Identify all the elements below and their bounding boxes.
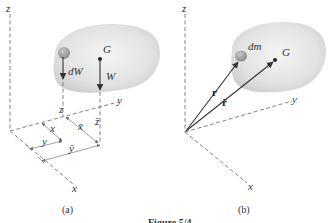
z-dim-label: z — [58, 103, 64, 115]
z-axis-label-b: z — [181, 2, 187, 14]
centroid-figure: z y x dW G W z z̄ x x̄ y ȳ — [0, 0, 333, 223]
y-axis-label-a: y — [116, 94, 122, 106]
y-axis-b — [185, 101, 292, 132]
panel-b: z y x dm G r r̄ (b) — [181, 2, 326, 216]
r-label: r — [212, 86, 217, 98]
y-dim-label: y — [41, 135, 47, 147]
x-axis-label-b: x — [247, 180, 253, 192]
G-label-a: G — [103, 43, 111, 55]
x-axis-label-a: x — [71, 182, 77, 194]
figure-caption: Figure 5/4 — [148, 217, 191, 223]
x-bar-dim-label: x̄ — [77, 120, 83, 132]
mass-element-a — [58, 47, 70, 59]
r-bar-vector — [186, 62, 273, 131]
ext-line-2 — [38, 157, 44, 163]
y-axis-a — [10, 102, 118, 131]
rigid-body-a — [54, 24, 160, 93]
ext-line-1 — [26, 145, 32, 151]
panel-b-label: (b) — [238, 204, 250, 216]
dm-label: dm — [248, 40, 262, 52]
centroid-point-b — [273, 58, 277, 62]
r-bar-label: r̄ — [222, 96, 227, 108]
panel-a: z y x dW G W z z̄ x x̄ y ȳ — [5, 2, 160, 216]
x-axis-b — [185, 132, 247, 183]
x-dim-label: x — [49, 122, 55, 134]
z-axis-label-a: z — [5, 2, 11, 14]
y-axis-label-b: y — [291, 93, 297, 105]
G-label-b: G — [282, 46, 290, 58]
z-bar-dim-label: z̄ — [94, 115, 100, 127]
mass-element-b — [235, 51, 247, 62]
W-label: W — [106, 70, 116, 82]
panel-a-label: (a) — [62, 204, 73, 216]
dW-label: dW — [68, 65, 84, 77]
